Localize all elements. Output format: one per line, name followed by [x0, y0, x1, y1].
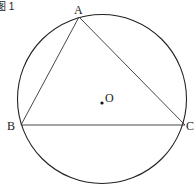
geometry-diagram: 图 1 A B C O: [0, 0, 195, 192]
side-ac: [79, 17, 185, 125]
label-b: B: [7, 119, 15, 133]
center-point-o: [100, 101, 103, 104]
label-o: O: [105, 91, 114, 105]
label-a: A: [74, 3, 83, 17]
label-c: C: [186, 119, 194, 133]
side-ab: [21, 17, 79, 125]
figure-label: 图 1: [0, 1, 15, 12]
